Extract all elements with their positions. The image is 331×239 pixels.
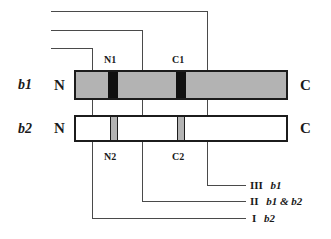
connector-iii-legend-horizontal (207, 185, 246, 186)
domain-block-c2 (177, 117, 185, 140)
row-label-b2: b2 (18, 122, 32, 136)
domain-label-n1: N1 (104, 55, 116, 65)
legend-numeral-i: I (252, 212, 256, 224)
domain-label-c2: C2 (172, 152, 184, 162)
legend-constructs-iii: b1 (271, 179, 282, 191)
legend-constructs-ii: b1 & b2 (266, 195, 302, 207)
connector-iii-top-horizontal (51, 11, 208, 12)
legend-numeral-ii: II (250, 195, 259, 207)
terminus-label-b1-c: C (300, 78, 311, 93)
protein-bar-b2 (74, 115, 288, 142)
connector-i-legend-horizontal (92, 218, 246, 219)
connector-ii-top-horizontal (51, 30, 143, 31)
terminus-label-b2-n: N (54, 121, 65, 136)
legend-constructs-i: b2 (264, 212, 275, 224)
legend-item-iii: III b1 (250, 180, 282, 191)
domain-block-n1 (108, 72, 118, 98)
legend-item-ii: II b1 & b2 (250, 196, 302, 207)
domain-label-c1: C1 (172, 55, 184, 65)
connector-ii-legend-horizontal (142, 201, 246, 202)
terminus-label-b2-c: C (300, 121, 311, 136)
domain-block-c1 (176, 72, 186, 98)
protein-bar-b1 (74, 70, 288, 100)
legend-item-i: I b2 (252, 213, 275, 224)
legend-numeral-iii: III (250, 179, 263, 191)
connector-i-top-horizontal (51, 48, 93, 49)
domain-label-n2: N2 (104, 152, 116, 162)
protein-domain-diagram: b1 N C N1 C1 b2 N C N2 C2 III b1 II b1 &… (0, 0, 331, 239)
terminus-label-b1-n: N (54, 78, 65, 93)
domain-block-n2 (110, 117, 118, 140)
row-label-b1: b1 (18, 78, 32, 92)
